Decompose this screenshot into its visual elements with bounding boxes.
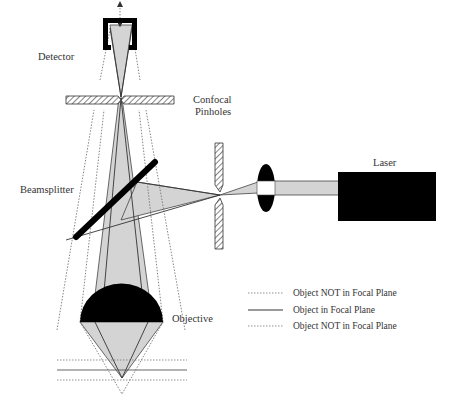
legend-item-not-focal-2: Object NOT in Focal Plane [293, 320, 397, 332]
legend-item-focal: Object in Focal Plane [293, 304, 375, 316]
detector-arrow-icon [117, 1, 123, 7]
legend-lines [248, 293, 283, 326]
beamsplitter-label: Beamsplitter [20, 183, 74, 196]
objective-lens [80, 284, 163, 322]
legend-item-not-focal-1: Object NOT in Focal Plane [293, 287, 397, 299]
detector-label: Detector [38, 50, 74, 63]
confocal-label-line2: Pinholes [195, 105, 231, 118]
laser [338, 172, 436, 221]
objective-label: Objective [172, 312, 213, 325]
laser-label: Laser [373, 156, 396, 169]
lens-aperture [257, 181, 275, 195]
